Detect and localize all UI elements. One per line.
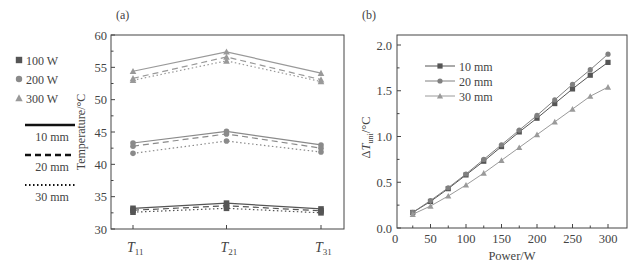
x-tick-label: 150	[492, 232, 511, 246]
x-axis-label: Power/W	[488, 249, 535, 263]
circle-marker	[130, 143, 136, 149]
triangle-marker	[445, 193, 451, 199]
square-icon	[437, 63, 442, 68]
circle-marker	[224, 131, 230, 137]
figure: 100 W200 W300 W10 mm20 mm30 mm(a)3035404…	[0, 0, 638, 272]
panel-a-label: (a)	[116, 8, 129, 22]
triangle-marker	[534, 132, 540, 138]
circle-marker	[463, 171, 468, 176]
x-tick-label: 300	[599, 232, 618, 246]
y-tick-label: 35	[95, 190, 108, 204]
triangle-marker	[498, 157, 504, 163]
y-tick-label: 55	[95, 61, 108, 75]
x-tick-label: 100	[457, 232, 476, 246]
legend-power-label: 300 W	[26, 92, 59, 106]
panel-b: (b)0.00.51.01.52.0050100150200250300Powe…	[359, 8, 627, 263]
left-legend: 100 W200 W300 W10 mm20 mm30 mm	[15, 54, 75, 205]
circle-marker	[570, 82, 575, 87]
y-tick-label: 30	[95, 223, 108, 237]
series-line	[413, 87, 608, 214]
y-tick-label: 1.5	[376, 84, 392, 98]
triangle-marker	[569, 106, 575, 112]
y-tick-label: 50	[95, 93, 108, 107]
series-line	[133, 61, 321, 82]
circle-marker	[499, 142, 504, 147]
circle-marker	[481, 157, 486, 162]
square-marker	[224, 206, 230, 212]
square-marker	[588, 73, 593, 78]
x-tick-label: T11	[127, 240, 143, 257]
circle-marker	[552, 97, 557, 102]
x-tick-label: T21	[221, 240, 238, 257]
x-tick-label: 50	[424, 232, 437, 246]
legend-line-label: 30 mm	[35, 190, 69, 204]
triangle-marker	[605, 84, 611, 90]
y-axis-label: ΔTuni/°C	[359, 116, 375, 158]
square-marker	[605, 60, 610, 65]
circle-marker	[318, 149, 324, 155]
circle-marker	[517, 127, 522, 132]
circle-icon	[16, 76, 22, 82]
x-tick-label: T31	[315, 240, 332, 257]
circle-icon	[437, 78, 442, 83]
y-tick-label: 0.0	[376, 222, 392, 236]
y-tick-label: 1.0	[376, 130, 392, 144]
triangle-icon	[15, 94, 22, 101]
circle-marker	[130, 151, 136, 157]
square-marker	[570, 86, 575, 91]
x-tick-label: 200	[528, 232, 547, 246]
square-marker	[318, 210, 324, 216]
y-tick-label: 45	[95, 126, 108, 140]
x-tick-label: 0	[392, 232, 398, 246]
triangle-marker	[552, 119, 558, 125]
circle-marker	[605, 52, 610, 57]
y-tick-label: 0.5	[376, 176, 392, 190]
circle-marker	[428, 198, 433, 203]
y-tick-label: 60	[95, 29, 108, 43]
circle-marker	[224, 138, 230, 144]
square-icon	[16, 57, 22, 63]
circle-marker	[534, 113, 539, 118]
triangle-marker	[587, 93, 593, 99]
triangle-marker	[516, 144, 522, 150]
legend-label: 20 mm	[459, 75, 493, 89]
circle-marker	[588, 67, 593, 72]
triangle-marker	[463, 182, 469, 188]
y-tick-label: 40	[95, 158, 108, 172]
square-marker	[130, 209, 136, 215]
y-tick-label: 2.0	[376, 39, 392, 53]
x-tick-label: 250	[563, 232, 582, 246]
circle-marker	[446, 185, 451, 190]
panel-a: (a)30354045505560T11T21T31Temperature/°C	[74, 8, 344, 257]
triangle-marker	[481, 170, 487, 176]
legend-power-label: 200 W	[26, 73, 59, 87]
panel-b-label: (b)	[362, 8, 376, 22]
legend-label: 10 mm	[459, 60, 493, 74]
legend-line-label: 20 mm	[35, 160, 69, 174]
legend-line-label: 10 mm	[35, 130, 69, 144]
series-line	[413, 54, 608, 212]
y-axis-label: Temperature/°C	[74, 94, 88, 171]
legend-power-label: 100 W	[26, 54, 59, 68]
legend-label: 30 mm	[459, 90, 493, 104]
